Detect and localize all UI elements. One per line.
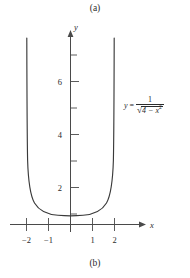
figure-page: (a) <box>0 0 190 278</box>
y-axis-arrow <box>68 30 74 37</box>
graph-svg: 2 4 6 −2 −1 1 2 y x <box>0 20 190 256</box>
equation-label: y = 1 √ 4 − x2 <box>124 96 164 115</box>
y-tick-label-4: 4 <box>58 130 63 140</box>
equation-fraction: 1 √ 4 − x2 <box>136 96 164 115</box>
equation-equals: = <box>130 102 135 110</box>
x-axis-name: x <box>149 220 154 230</box>
x-tick-label-minus2: −2 <box>22 235 31 245</box>
y-axis-name: y <box>73 22 78 32</box>
x-tick-label-2: 2 <box>112 235 116 245</box>
equation-lhs: y <box>124 102 128 110</box>
equation-denominator: √ 4 − x2 <box>136 105 164 115</box>
x-tick-label-1: 1 <box>90 235 94 245</box>
y-tick-label-2: 2 <box>58 183 62 193</box>
equation-numerator: 1 <box>145 96 155 104</box>
graph-plot-area: 2 4 6 −2 −1 1 2 y x <box>0 20 190 256</box>
figure-caption-b: (b) <box>0 258 190 268</box>
radicand-main: 4 − x <box>142 106 159 115</box>
x-tick-label-minus1: −1 <box>44 235 53 245</box>
radical-group: √ 4 − x2 <box>137 106 163 115</box>
y-tick-label-6: 6 <box>58 77 62 87</box>
figure-caption-a: (a) <box>0 3 190 13</box>
x-axis-arrow <box>139 222 146 228</box>
radicand-exponent: 2 <box>159 104 162 110</box>
radicand: 4 − x2 <box>141 106 163 115</box>
